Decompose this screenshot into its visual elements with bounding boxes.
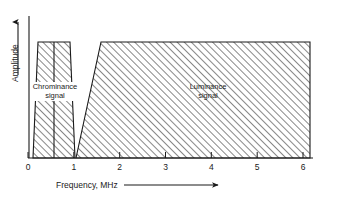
luminance-label-line1: Luminance <box>190 82 227 91</box>
x-axis-title: Frequency, MHz <box>56 180 118 190</box>
x-tick-label-0: 0 <box>26 162 31 172</box>
x-tick-label-5: 5 <box>255 162 260 172</box>
chrominance-label-line1: Chrominance <box>33 82 78 91</box>
signal-bandwidth-chart: 0 1 2 3 4 5 6 Chrominance signal Luminan… <box>0 0 337 202</box>
x-tick-label-1: 1 <box>71 162 76 172</box>
x-tick-label-2: 2 <box>117 162 122 172</box>
x-tick-label-3: 3 <box>163 162 168 172</box>
luminance-fill <box>76 42 310 158</box>
x-tick-label-4: 4 <box>209 162 214 172</box>
y-axis-title: Amplitude <box>10 44 20 82</box>
chrominance-label-group: Chrominance signal <box>30 82 80 101</box>
luminance-label-line2: signal <box>198 91 218 100</box>
chart-figure: 0 1 2 3 4 5 6 Chrominance signal Luminan… <box>0 0 337 202</box>
chrominance-label-line2: signal <box>45 91 65 100</box>
x-tick-label-6: 6 <box>301 162 306 172</box>
luminance-region <box>76 42 310 158</box>
